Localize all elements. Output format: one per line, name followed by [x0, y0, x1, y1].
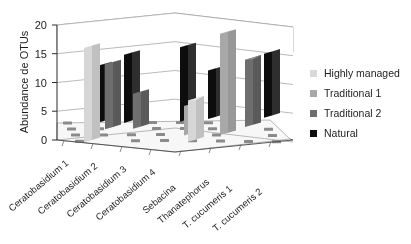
legend-label-highly-managed: Highly managed — [324, 67, 400, 79]
legend-label-traditional-1: Traditional 1 — [324, 87, 382, 99]
y-tick-0: 0 — [41, 134, 47, 146]
legend-swatch-traditional-1 — [310, 90, 317, 97]
chart-figure: 20 15 10 5 0 Abundance de OTUs — [0, 0, 411, 244]
bar-tcucumeris2-natural — [264, 49, 280, 118]
legend-swatch-traditional-2 — [310, 110, 317, 117]
legend-label-natural: Natural — [324, 127, 358, 139]
legend-swatch-natural — [310, 130, 317, 137]
legend-item-highly-managed[interactable]: Highly managed — [310, 67, 400, 79]
y-tick-20: 20 — [35, 19, 47, 31]
bar-tcucumeris1-traditional1 — [220, 29, 236, 135]
y-tick-5: 5 — [41, 105, 47, 117]
bar-ceratobasidium3-traditional2 — [105, 60, 121, 130]
y-tick-15: 15 — [35, 48, 47, 60]
legend-swatch-highly-managed — [310, 70, 317, 77]
bar-ceratobasidium2-highly-managed — [84, 43, 100, 142]
bar-tcucumeris2-traditional2 — [245, 55, 261, 127]
bar-ceratobasidium4-traditional2 — [133, 89, 149, 129]
y-tick-10: 10 — [35, 77, 47, 89]
legend-label-traditional-2: Traditional 2 — [324, 107, 382, 119]
bar-sebacina-highly-managed — [188, 96, 204, 142]
y-axis-label: Abundance de OTUs — [18, 30, 30, 133]
bar-chart-3d: 20 15 10 5 0 Abundance de OTUs — [0, 0, 411, 244]
